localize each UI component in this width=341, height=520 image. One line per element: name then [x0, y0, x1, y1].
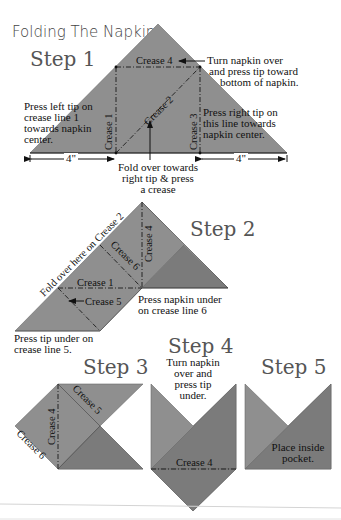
- svg-text:under.: under.: [179, 389, 206, 401]
- napkin-folding-diagram: Folding The Napkin Step 1 Crease 4 Creas…: [0, 0, 341, 520]
- step-1: Step 1 Crease 4 Crease 2 Crease 1 Crease…: [24, 24, 299, 195]
- step-1-crease-4-label: Crease 4: [136, 55, 173, 66]
- step-3-crease-4-label: Crease 4: [46, 408, 57, 445]
- step-3-heading: Step 3: [83, 355, 148, 379]
- svg-text:a crease: a crease: [140, 183, 175, 195]
- step-1-crease-1-label: Crease 1: [103, 114, 114, 150]
- step-3: Step 3 Crease 4 Crease 5 Crease 6: [15, 355, 149, 469]
- step-2-crease-1-label: Crease 1: [77, 277, 113, 288]
- step-4: Step 4 Crease 4 Turn napkin over and pre…: [151, 334, 236, 511]
- step-1-crease-3-label: Crease 3: [188, 114, 199, 150]
- svg-text:4": 4": [66, 152, 76, 164]
- step-5: Step 5 Place inside pocket.: [245, 355, 331, 469]
- step-2: Step 2 Crease 4 Crease 6 Crease 1 Crease…: [14, 202, 255, 355]
- svg-text:pocket.: pocket.: [282, 452, 314, 464]
- svg-text:napkin center.: napkin center.: [203, 128, 265, 140]
- step-2-crease-4-label: Crease 4: [143, 225, 154, 262]
- svg-text:4": 4": [236, 152, 246, 164]
- step-2-heading: Step 2: [190, 217, 255, 241]
- step-1-heading: Step 1: [30, 47, 95, 71]
- step-4-heading: Step 4: [168, 334, 233, 358]
- svg-text:center.: center.: [24, 133, 53, 145]
- page-title: Folding The Napkin: [12, 23, 155, 41]
- step-2-crease-5-label: Crease 5: [85, 296, 121, 307]
- svg-text:bottom of napkin.: bottom of napkin.: [220, 76, 299, 88]
- step-4-bottom-tip: [151, 469, 236, 511]
- step-4-crease-4-label: Crease 4: [176, 457, 213, 468]
- page-divider-line: [0, 504, 341, 508]
- svg-text:crease line 5.: crease line 5.: [14, 343, 72, 355]
- svg-text:on crease line 6: on crease line 6: [138, 304, 207, 316]
- step-5-heading: Step 5: [261, 355, 326, 379]
